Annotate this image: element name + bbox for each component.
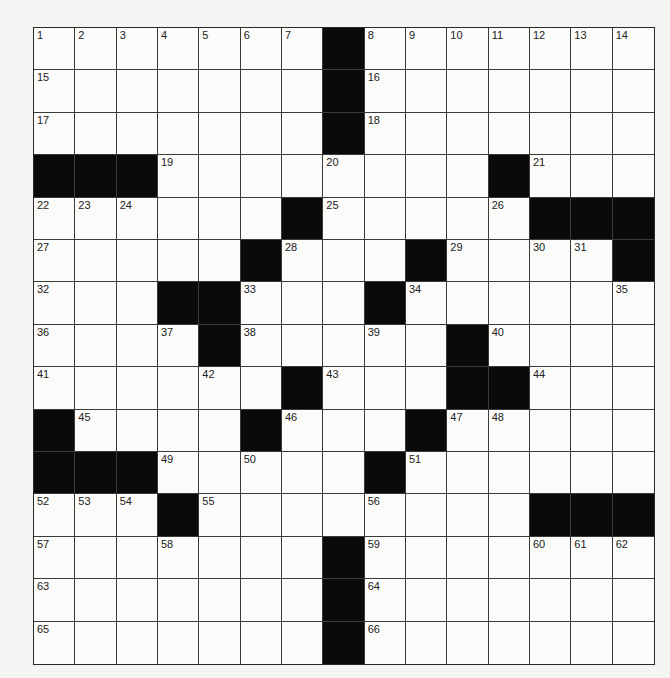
- grid-cell[interactable]: [199, 622, 240, 664]
- grid-cell[interactable]: [613, 622, 654, 664]
- grid-cell[interactable]: [199, 155, 240, 197]
- grid-cell[interactable]: [613, 452, 654, 494]
- grid-cell[interactable]: [613, 367, 654, 409]
- grid-cell[interactable]: [489, 113, 530, 155]
- grid-cell[interactable]: [447, 579, 488, 621]
- grid-cell[interactable]: [282, 325, 323, 367]
- grid-cell[interactable]: [117, 537, 158, 579]
- grid-cell[interactable]: [75, 325, 116, 367]
- grid-cell[interactable]: 31: [571, 240, 612, 282]
- grid-cell[interactable]: 8: [365, 28, 406, 70]
- grid-cell[interactable]: 46: [282, 410, 323, 452]
- grid-cell[interactable]: [613, 325, 654, 367]
- grid-cell[interactable]: [323, 282, 364, 324]
- grid-cell[interactable]: [406, 537, 447, 579]
- grid-cell[interactable]: [282, 452, 323, 494]
- grid-cell[interactable]: [282, 579, 323, 621]
- grid-cell[interactable]: 6: [241, 28, 282, 70]
- grid-cell[interactable]: [530, 410, 571, 452]
- grid-cell[interactable]: [75, 622, 116, 664]
- grid-cell[interactable]: 37: [158, 325, 199, 367]
- grid-cell[interactable]: [489, 240, 530, 282]
- grid-cell[interactable]: 60: [530, 537, 571, 579]
- grid-cell[interactable]: [282, 282, 323, 324]
- grid-cell[interactable]: [75, 113, 116, 155]
- grid-cell[interactable]: 63: [34, 579, 75, 621]
- grid-cell[interactable]: 25: [323, 198, 364, 240]
- grid-cell[interactable]: 17: [34, 113, 75, 155]
- grid-cell[interactable]: [75, 537, 116, 579]
- grid-cell[interactable]: 55: [199, 494, 240, 536]
- grid-cell[interactable]: 11: [489, 28, 530, 70]
- grid-cell[interactable]: 16: [365, 70, 406, 112]
- grid-cell[interactable]: [447, 494, 488, 536]
- grid-cell[interactable]: [323, 240, 364, 282]
- grid-cell[interactable]: [199, 579, 240, 621]
- grid-cell[interactable]: [199, 113, 240, 155]
- grid-cell[interactable]: [530, 622, 571, 664]
- grid-cell[interactable]: [282, 494, 323, 536]
- grid-cell[interactable]: [158, 579, 199, 621]
- grid-cell[interactable]: 28: [282, 240, 323, 282]
- grid-cell[interactable]: [282, 155, 323, 197]
- grid-cell[interactable]: [571, 579, 612, 621]
- grid-cell[interactable]: [613, 70, 654, 112]
- grid-cell[interactable]: 54: [117, 494, 158, 536]
- grid-cell[interactable]: [282, 113, 323, 155]
- grid-cell[interactable]: 65: [34, 622, 75, 664]
- grid-cell[interactable]: 33: [241, 282, 282, 324]
- grid-cell[interactable]: 4: [158, 28, 199, 70]
- grid-cell[interactable]: [530, 113, 571, 155]
- grid-cell[interactable]: [158, 198, 199, 240]
- grid-cell[interactable]: 61: [571, 537, 612, 579]
- grid-cell[interactable]: [489, 494, 530, 536]
- grid-cell[interactable]: [406, 155, 447, 197]
- grid-cell[interactable]: 7: [282, 28, 323, 70]
- grid-cell[interactable]: [323, 494, 364, 536]
- grid-cell[interactable]: 52: [34, 494, 75, 536]
- grid-cell[interactable]: [241, 494, 282, 536]
- grid-cell[interactable]: 47: [447, 410, 488, 452]
- grid-cell[interactable]: 15: [34, 70, 75, 112]
- grid-cell[interactable]: 49: [158, 452, 199, 494]
- grid-cell[interactable]: [406, 622, 447, 664]
- grid-cell[interactable]: [158, 410, 199, 452]
- grid-cell[interactable]: 44: [530, 367, 571, 409]
- grid-cell[interactable]: 43: [323, 367, 364, 409]
- grid-cell[interactable]: 14: [613, 28, 654, 70]
- grid-cell[interactable]: 29: [447, 240, 488, 282]
- grid-cell[interactable]: 59: [365, 537, 406, 579]
- grid-cell[interactable]: [241, 367, 282, 409]
- grid-cell[interactable]: [571, 282, 612, 324]
- grid-cell[interactable]: 66: [365, 622, 406, 664]
- grid-cell[interactable]: [571, 70, 612, 112]
- grid-cell[interactable]: [365, 198, 406, 240]
- grid-cell[interactable]: [613, 113, 654, 155]
- grid-cell[interactable]: [447, 622, 488, 664]
- grid-cell[interactable]: [117, 282, 158, 324]
- grid-cell[interactable]: [447, 198, 488, 240]
- grid-cell[interactable]: [158, 240, 199, 282]
- grid-cell[interactable]: [489, 537, 530, 579]
- grid-cell[interactable]: 22: [34, 198, 75, 240]
- grid-cell[interactable]: 58: [158, 537, 199, 579]
- grid-cell[interactable]: [406, 113, 447, 155]
- grid-cell[interactable]: 32: [34, 282, 75, 324]
- grid-cell[interactable]: [75, 240, 116, 282]
- grid-cell[interactable]: [117, 622, 158, 664]
- grid-cell[interactable]: [199, 240, 240, 282]
- grid-cell[interactable]: 21: [530, 155, 571, 197]
- grid-cell[interactable]: [530, 452, 571, 494]
- grid-cell[interactable]: [75, 70, 116, 112]
- grid-cell[interactable]: [75, 367, 116, 409]
- grid-cell[interactable]: [75, 579, 116, 621]
- grid-cell[interactable]: 27: [34, 240, 75, 282]
- grid-cell[interactable]: [241, 537, 282, 579]
- grid-cell[interactable]: [406, 70, 447, 112]
- grid-cell[interactable]: [158, 113, 199, 155]
- grid-cell[interactable]: 53: [75, 494, 116, 536]
- grid-cell[interactable]: 56: [365, 494, 406, 536]
- grid-cell[interactable]: [282, 70, 323, 112]
- grid-cell[interactable]: 57: [34, 537, 75, 579]
- grid-cell[interactable]: 9: [406, 28, 447, 70]
